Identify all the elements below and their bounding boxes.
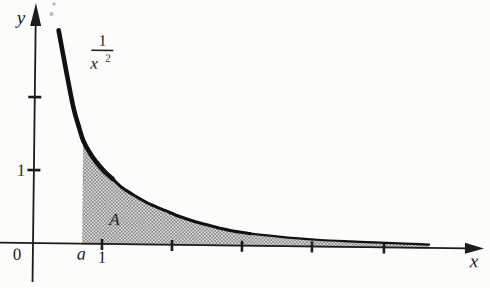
y-axis-label: y [15,7,26,28]
x-tick-label-1: 1 [98,248,107,267]
y-axis-arrowhead-icon [30,3,41,26]
print-artifact-speck [52,2,56,6]
x-axis-label: x [469,250,479,271]
figure-rotated-group: y x 0 1 a 1 A 1 x 2 [0,3,487,288]
region-label-A: A [108,210,120,229]
fraction-numerator: 1 [98,32,106,49]
y-tick-label-1: 1 [17,161,26,180]
curve-label-fraction: 1 x 2 [89,32,113,73]
figure-canvas: y x 0 1 a 1 A 1 x 2 [0,0,490,288]
print-artifact-speck [49,12,53,16]
fraction-denominator-exponent: 2 [105,52,111,64]
figure-svg: y x 0 1 a 1 A 1 x 2 [0,0,490,288]
lower-bound-label-a: a [77,244,86,264]
print-artifact-specks [49,2,55,16]
origin-label: 0 [13,245,22,264]
fraction-denominator-base: x [89,54,98,73]
